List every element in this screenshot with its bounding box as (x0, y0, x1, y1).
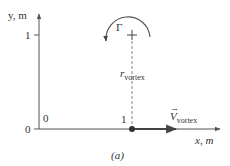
panel-label: (a) (111, 150, 124, 161)
x-axis-label: x, m (195, 135, 213, 146)
circulation-arrow-icon (106, 17, 150, 41)
radius-label-sub: vortex (124, 73, 144, 82)
y-tick-label-1: 1 (25, 30, 31, 41)
velocity-label-sub: vortex (177, 116, 197, 125)
vortex-center-plus-icon (127, 30, 137, 40)
velocity-vector-arrow-icon: → (170, 104, 179, 113)
y-tick-label-0: 0 (25, 124, 31, 135)
y-axis-label: y, m (8, 10, 27, 21)
circulation-symbol: Γ (116, 22, 122, 33)
x-tick-label-1: 1 (121, 114, 127, 125)
origin-label: 0 (43, 113, 49, 124)
radius-label: rvortex (120, 68, 145, 82)
vortex-position-dot (129, 126, 135, 132)
velocity-label: → V vortex (170, 111, 197, 125)
